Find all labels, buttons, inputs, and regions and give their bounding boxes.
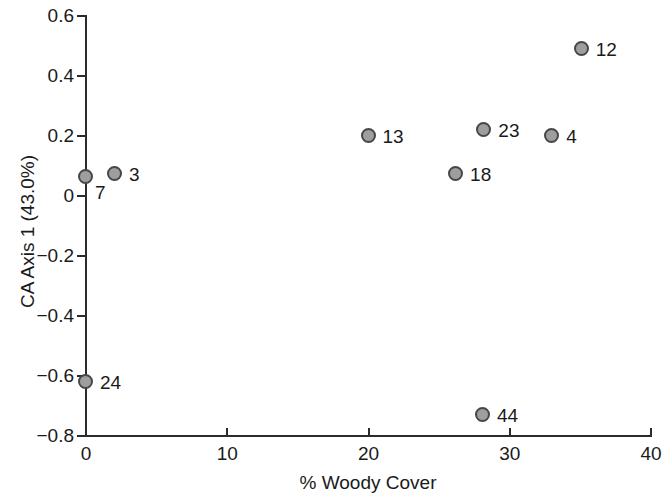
data-point-label: 18 [470, 165, 491, 184]
data-point-marker [361, 128, 376, 143]
y-tick-label: −0.4 [0, 306, 74, 325]
x-tick-mark [85, 428, 87, 437]
data-point-label: 23 [498, 121, 519, 140]
x-tick-label: 0 [56, 444, 116, 463]
data-point-marker [544, 128, 559, 143]
x-tick-mark [368, 428, 370, 437]
data-point-marker [78, 374, 93, 389]
data-point-marker [476, 122, 491, 137]
y-tick-label: 0.2 [0, 126, 74, 145]
y-tick-label: 0.6 [0, 6, 74, 25]
y-tick-mark [77, 135, 86, 137]
x-tick-label: 30 [480, 444, 540, 463]
data-point-marker [448, 166, 463, 181]
x-tick-mark [509, 428, 511, 437]
y-tick-mark [77, 255, 86, 257]
y-tick-mark [77, 75, 86, 77]
data-point-label: 24 [100, 373, 121, 392]
data-point-marker [107, 166, 122, 181]
data-point-label: 4 [566, 127, 577, 146]
x-tick-label: 10 [197, 444, 257, 463]
data-point-label: 13 [383, 127, 404, 146]
data-point-label: 7 [95, 183, 106, 202]
y-tick-label: −0.6 [0, 366, 74, 385]
data-point-marker [574, 41, 589, 56]
x-tick-label: 40 [621, 444, 662, 463]
data-point-marker [78, 169, 93, 184]
data-point-marker [475, 407, 490, 422]
scatter-plot: 0.60.40.20−0.2−0.4−0.6−0.8 010203040 732… [0, 0, 662, 500]
y-tick-mark [77, 15, 86, 17]
y-axis-title: CA Axis 1 (43.0%) [18, 67, 37, 397]
y-tick-mark [77, 195, 86, 197]
x-tick-mark [226, 428, 228, 437]
y-tick-label: 0.4 [0, 66, 74, 85]
y-tick-label: −0.8 [0, 426, 74, 445]
data-point-label: 12 [596, 40, 617, 59]
x-tick-mark [650, 428, 652, 437]
data-point-label: 44 [497, 406, 518, 425]
x-tick-label: 20 [339, 444, 399, 463]
y-axis-line [85, 15, 87, 436]
data-point-label: 3 [129, 165, 140, 184]
y-tick-mark [77, 315, 86, 317]
x-axis-title: % Woody Cover [85, 473, 651, 492]
